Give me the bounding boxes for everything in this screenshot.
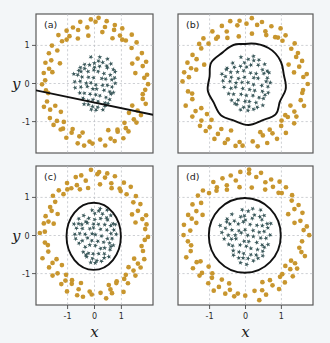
outer-class-point <box>305 82 310 87</box>
outer-class-point <box>130 61 135 66</box>
outer-class-point <box>186 239 191 244</box>
outer-class-point <box>303 254 308 259</box>
outer-class-point <box>129 32 134 37</box>
outer-class-point <box>188 249 193 254</box>
outer-class-point <box>290 274 295 279</box>
panel-d: (d) <box>178 166 313 305</box>
outer-class-point <box>220 176 225 181</box>
outer-class-point <box>145 72 150 77</box>
outer-class-point <box>90 141 95 146</box>
outer-class-point <box>136 261 141 266</box>
outer-class-point <box>118 189 123 194</box>
outer-class-point <box>203 129 208 134</box>
outer-class-point <box>298 98 303 103</box>
outer-class-point <box>140 51 145 56</box>
outer-class-point <box>205 112 210 117</box>
outer-class-point <box>70 127 75 132</box>
outer-class-point <box>121 290 126 295</box>
outer-class-point <box>264 292 269 297</box>
outer-class-point <box>64 273 69 278</box>
outer-class-point <box>141 249 146 254</box>
outer-class-point <box>50 43 55 48</box>
y-tick-bottom-0: 0 <box>24 232 29 241</box>
outer-class-point <box>133 71 138 76</box>
outer-class-point <box>189 66 194 71</box>
outer-class-point <box>206 281 211 286</box>
outer-class-point <box>146 82 151 87</box>
outer-class-point <box>243 293 248 298</box>
outer-class-point <box>121 136 126 141</box>
outer-class-point <box>60 39 65 44</box>
outer-class-point <box>48 205 53 210</box>
outer-class-point <box>55 119 60 124</box>
outer-class-point <box>295 266 300 271</box>
outer-class-point <box>37 231 42 236</box>
y-tick-top-0: 0 <box>24 80 29 89</box>
outer-class-point <box>51 123 56 128</box>
x-tick-left-1: 1 <box>119 312 124 321</box>
outer-class-point <box>193 109 198 114</box>
panel-d-tag: (d) <box>186 171 199 182</box>
outer-class-point <box>127 110 132 115</box>
outer-class-point <box>250 139 255 144</box>
outer-class-point <box>43 214 48 219</box>
outer-class-point <box>265 141 270 146</box>
outer-class-point <box>134 40 139 45</box>
outer-class-point <box>120 37 125 42</box>
x-tick-left-0: 0 <box>92 312 97 321</box>
outer-class-point <box>199 118 204 123</box>
outer-class-point <box>279 118 284 123</box>
outer-class-point <box>237 18 242 23</box>
outer-class-point <box>225 187 230 192</box>
outer-class-point <box>223 291 228 296</box>
panel-a-tag: (a) <box>44 19 57 30</box>
outer-class-point <box>233 144 238 149</box>
x-tick-right-1: 1 <box>279 312 284 321</box>
outer-class-point <box>255 23 260 28</box>
outer-class-point <box>276 35 281 40</box>
outer-class-point <box>182 223 187 228</box>
outer-class-point <box>263 187 268 192</box>
outer-class-point <box>270 283 275 288</box>
outer-class-point <box>225 36 230 41</box>
outer-class-point <box>252 289 257 294</box>
outer-class-point <box>98 291 103 296</box>
outer-class-point <box>46 243 51 248</box>
outer-class-point <box>260 20 265 25</box>
outer-class-point <box>190 97 195 102</box>
outer-class-point <box>296 51 301 56</box>
outer-class-point <box>126 265 131 270</box>
outer-class-point <box>89 292 94 297</box>
outer-class-point <box>201 36 206 41</box>
outer-class-point <box>50 273 55 278</box>
outer-class-point <box>194 57 199 62</box>
outer-class-point <box>236 34 241 39</box>
outer-class-point <box>97 170 102 175</box>
outer-class-point <box>292 70 297 75</box>
outer-class-point <box>224 183 229 188</box>
outer-class-point <box>128 184 133 189</box>
outer-class-point <box>260 288 265 293</box>
outer-class-point <box>54 257 59 262</box>
outer-class-point <box>280 38 285 43</box>
outer-class-point <box>122 120 127 125</box>
outer-class-point <box>210 271 215 276</box>
outer-class-point <box>268 278 273 283</box>
outer-class-point <box>65 289 70 294</box>
outer-class-point <box>55 48 60 53</box>
outer-class-point <box>140 92 145 97</box>
outer-class-point <box>207 125 212 130</box>
outer-class-point <box>304 72 309 77</box>
outer-class-point <box>297 245 302 250</box>
outer-class-point <box>142 257 147 262</box>
outer-class-point <box>75 183 80 188</box>
outer-class-point <box>267 127 272 132</box>
outer-class-point <box>120 26 125 31</box>
outer-class-point <box>288 103 293 108</box>
outer-class-point <box>55 212 60 217</box>
outer-class-point <box>83 178 88 183</box>
outer-class-point <box>219 127 224 132</box>
outer-class-point <box>264 33 269 38</box>
outer-class-point <box>50 261 55 266</box>
outer-class-point <box>292 220 297 225</box>
